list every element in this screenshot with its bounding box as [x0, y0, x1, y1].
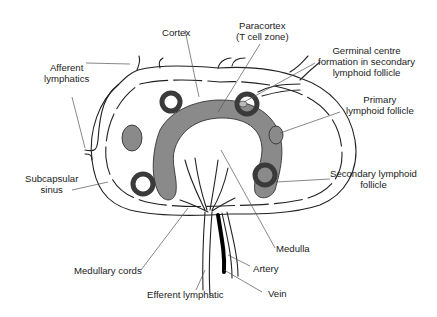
label-subcapsular-sinus: Subcapsular sinus [25, 173, 78, 195]
leader-primary [280, 112, 340, 133]
label-afferent-lymphatics: Afferent lymphatics [44, 62, 89, 84]
label-cortex: Cortex [162, 27, 190, 38]
label-secondary-follicle: Secondary lymphoid follicle [330, 168, 417, 190]
medullary-cords [180, 158, 235, 212]
label-efferent-lymphatic: Efferent lymphatic [147, 289, 224, 300]
vein-vessel [218, 215, 224, 272]
leader-cortex [185, 30, 199, 97]
label-primary-follicle: Primary lymphoid follicle [346, 94, 414, 116]
secondary-follicle-bottom-left [133, 174, 153, 194]
efferent-lymphatic [203, 212, 212, 295]
label-paracortex: Paracortex (T cell zone) [236, 20, 289, 42]
label-germinal-centre: Germinal centre formation in secondary l… [318, 45, 415, 78]
leader-secondary [276, 179, 330, 182]
lymph-node-diagram: Cortex Paracortex (T cell zone) Germinal… [0, 0, 437, 317]
primary-follicle-left [122, 125, 142, 151]
label-medulla: Medulla [276, 243, 310, 254]
secondary-follicle-top-left [162, 93, 180, 111]
primary-follicle-right [269, 126, 283, 144]
label-vein: Vein [268, 288, 287, 299]
afferent-lymphatic-left [85, 85, 118, 160]
label-artery: Artery [253, 263, 279, 274]
label-medullary-cords: Medullary cords [74, 265, 142, 276]
leader-efferent [196, 270, 205, 290]
leader-medullary-cords [141, 208, 188, 270]
germinal-centre [239, 101, 247, 107]
